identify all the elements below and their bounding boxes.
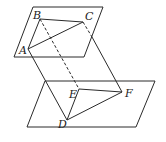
segment-bc xyxy=(40,19,83,22)
segment-ac xyxy=(28,22,83,49)
label-c: C xyxy=(85,10,94,23)
lower-plane xyxy=(27,81,155,127)
label-e: E xyxy=(68,88,77,101)
label-f: F xyxy=(124,87,133,100)
label-b: B xyxy=(32,9,41,22)
label-d: D xyxy=(57,118,67,131)
segment-cf xyxy=(92,37,122,92)
geometry-diagram: B C A E F D xyxy=(0,0,166,142)
segment-be xyxy=(40,19,79,89)
segment-ef xyxy=(79,89,122,92)
label-a: A xyxy=(18,44,27,57)
segment-cf-hidden xyxy=(83,22,92,37)
